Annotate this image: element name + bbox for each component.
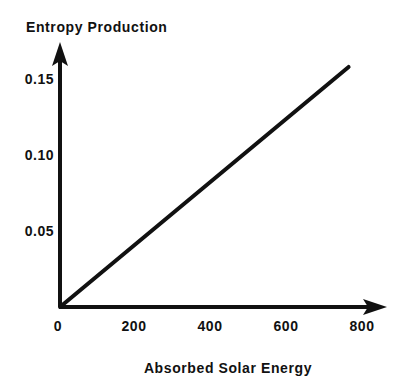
chart-figure: Entropy Production 0.15 0.10 0.05 0 200 … (0, 0, 406, 391)
x-tick-label-4: 800 (350, 318, 375, 334)
x-tick-label-0: 0 (54, 318, 62, 334)
x-axis-title: Absorbed Solar Energy (0, 360, 406, 376)
y-tick-label-1: 0.10 (8, 147, 54, 163)
x-tick-label-3: 600 (274, 318, 299, 334)
x-tick-label-2: 400 (198, 318, 223, 334)
x-tick-label-1: 200 (122, 318, 147, 334)
y-tick-labels: 0.15 0.10 0.05 (0, 0, 54, 391)
y-tick-label-0: 0.15 (8, 71, 54, 87)
data-series-entropy-production (60, 67, 349, 307)
y-tick-label-2: 0.05 (8, 223, 54, 239)
series-line (60, 67, 349, 307)
